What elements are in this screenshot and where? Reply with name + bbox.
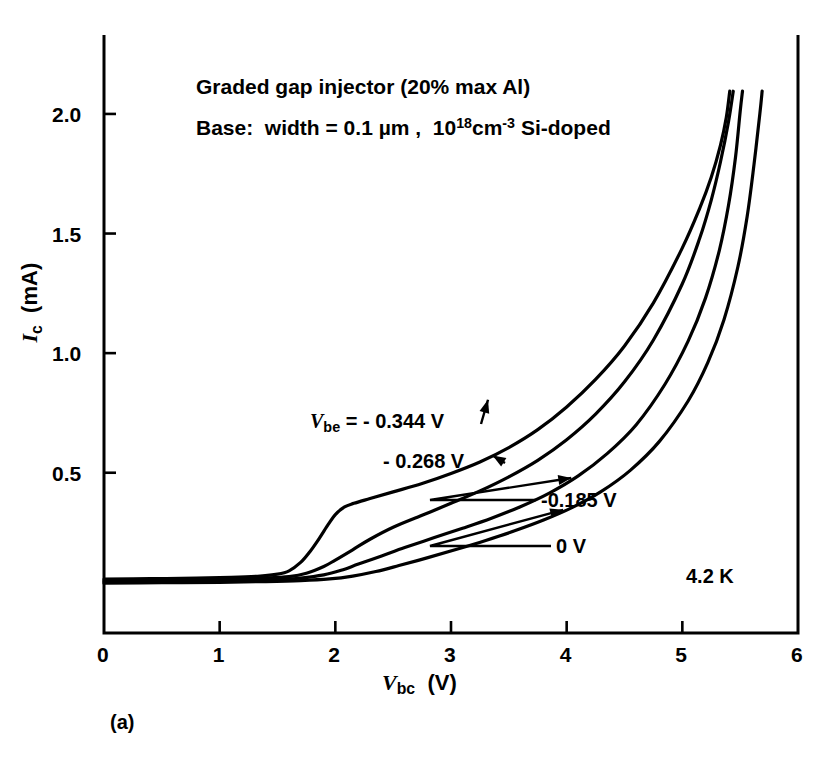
curve-label-0268: - 0.268 V: [383, 451, 464, 471]
y-axis-spacer: [17, 313, 42, 325]
x-tick-label: 2: [328, 644, 340, 665]
x-tick-label: 5: [675, 644, 687, 665]
annotation-line-2-exponent-2: -3: [502, 115, 515, 131]
x-axis-unit: [415, 670, 427, 695]
curve-1: [104, 91, 733, 581]
x-axis-symbol: V: [382, 670, 397, 695]
x-tick-label: 1: [213, 644, 225, 665]
x-tick-label: 3: [444, 644, 456, 665]
curve-2: [104, 91, 742, 582]
annotation-line-2-text-c: Si-doped: [515, 116, 611, 139]
vbe-subscript: be: [323, 419, 340, 435]
y-tick-label: 1.5: [52, 224, 81, 245]
x-tick-label: 0: [97, 644, 109, 665]
data-curves: [104, 91, 762, 583]
axis-ticks: [104, 114, 682, 633]
annotation-line-2-text-b: cm: [472, 116, 502, 139]
curve-label-0344-value: = - 0.344 V: [340, 410, 444, 432]
temperature-label: 4.2 K: [686, 566, 734, 586]
x-axis-unit-text: (V): [427, 670, 456, 695]
y-axis-symbol: I: [17, 334, 42, 343]
curve-0: [104, 91, 730, 579]
curve-label-0v: 0 V: [556, 536, 586, 556]
y-axis-title: Ic (mA): [17, 263, 42, 343]
x-axis-title: Vbc (V): [382, 672, 457, 697]
figure-caption: (a): [110, 712, 134, 732]
y-tick-label: 2.0: [52, 104, 81, 125]
curve-label-0344: Vbe = - 0.344 V: [310, 411, 444, 434]
annotation-line-2-text-a: Base: width = 0.1 µm , 10: [196, 116, 456, 139]
annotation-line-1: Graded gap injector (20% max Al): [196, 76, 530, 97]
callout-arrowhead-1: [493, 456, 507, 467]
annotation-line-2: Base: width = 0.1 µm , 1018cm-3 Si-doped: [196, 116, 611, 138]
x-axis-subscript: bc: [397, 680, 415, 697]
curve-label-0185: -0.185 V: [541, 490, 617, 510]
y-tick-label: 1.0: [52, 343, 81, 364]
y-axis-title-wrapper: Ic (mA): [19, 213, 44, 393]
y-axis-unit-text: (mA): [17, 263, 42, 313]
y-axis-subscript: c: [28, 325, 45, 334]
x-tick-label: 6: [791, 644, 803, 665]
y-tick-label: 0.5: [52, 463, 81, 484]
figure-container: Graded gap injector (20% max Al) Base: w…: [0, 0, 834, 773]
callout-arrowhead-0: [480, 400, 490, 414]
annotation-line-2-exponent: 18: [456, 115, 472, 131]
vbe-symbol: V: [310, 410, 323, 432]
x-tick-label: 4: [560, 644, 572, 665]
